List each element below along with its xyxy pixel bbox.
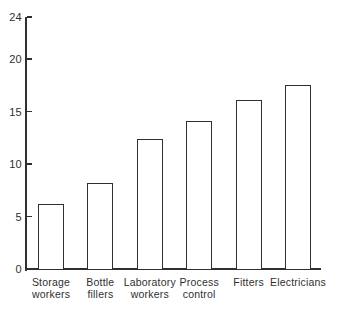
y-tick-label: 10 (0, 157, 22, 171)
y-tick (27, 163, 32, 165)
y-tick (27, 16, 32, 18)
y-tick (27, 58, 32, 60)
y-tick-label: 0 (0, 262, 22, 276)
bar (38, 204, 64, 269)
x-axis-line (25, 268, 321, 270)
y-tick (27, 111, 32, 113)
y-tick-label: 15 (0, 105, 22, 119)
bar-category-label-line: control (166, 289, 232, 301)
bar (87, 183, 113, 269)
y-tick (27, 216, 32, 218)
y-axis-line (25, 17, 27, 271)
y-tick-label: 20 (0, 52, 22, 66)
bar (285, 85, 311, 269)
y-tick-label: 24 (0, 10, 22, 24)
y-tick-label: 5 (0, 210, 22, 224)
bar (236, 100, 262, 269)
bar (186, 121, 212, 269)
bar-chart: 0510152024StorageworkersBottlefillersLab… (0, 0, 337, 312)
bar-category-label-line: Electricians (265, 277, 331, 289)
bar (137, 139, 163, 269)
bar-category-label: Electricians (265, 277, 331, 289)
